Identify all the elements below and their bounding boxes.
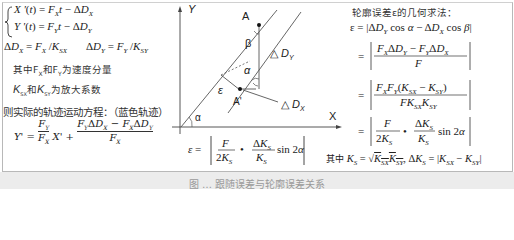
step3-den: FKSXKSY (400, 96, 437, 111)
step4-num-dks: ΔKS (415, 117, 433, 132)
step3-eq: = (358, 89, 364, 101)
step4-sin: sin 2α (438, 125, 465, 137)
step2-num: FXΔDY − FYΔDX (377, 42, 449, 57)
step4-bullet: • (403, 125, 407, 137)
step2-den: F (415, 57, 422, 69)
step3-num: FXFY(KSX − KSY) (376, 81, 447, 96)
step2-eq: = (358, 50, 364, 62)
figure-caption: 图 … 跟随误差与轮廓误差关系 (0, 176, 514, 189)
step4-eq: = (358, 125, 364, 137)
where-clause: 其中 KS = √KSXKSY, ΔKS = |KSX − KSY| (326, 152, 482, 167)
step4-den-ks: KS (418, 132, 429, 147)
step4-den-2ks: 2KS (376, 132, 392, 147)
step4-num-f: F (384, 117, 391, 129)
